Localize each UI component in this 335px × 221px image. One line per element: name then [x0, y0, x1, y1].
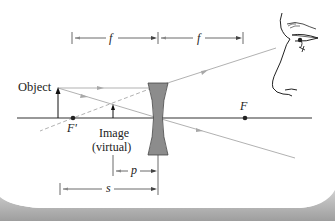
object-label: Object [18, 81, 51, 94]
diagram-card: Object Image (virtual) F' F f f p s [0, 0, 335, 221]
image-virtual-label: (virtual) [92, 141, 131, 153]
focal-length-left-label: f [109, 32, 112, 44]
object-arrow [56, 87, 61, 118]
object-distance-label: s [106, 182, 111, 194]
focal-point-left-label: F' [67, 122, 77, 134]
eye-profile-icon [272, 13, 318, 96]
light-rays [40, 48, 295, 158]
image-label: Image [99, 127, 129, 139]
focal-length-dimension [72, 32, 243, 44]
focal-point-right-label: F [240, 100, 247, 112]
diverging-lens [148, 83, 168, 155]
focal-point-right [243, 116, 248, 121]
ray-diagram [0, 0, 335, 221]
image-distance-label: p [131, 164, 137, 176]
focal-length-right-label: f [197, 32, 200, 44]
focal-point-left [71, 116, 76, 121]
image-arrow [111, 104, 115, 118]
